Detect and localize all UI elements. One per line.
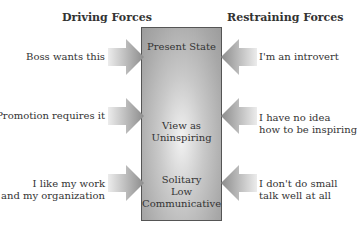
restraining-arrow-icon <box>221 165 257 201</box>
state-label-uninspiring: View as Uninspiring <box>142 120 221 144</box>
restraining-forces-header: Restraining Forces <box>227 11 343 24</box>
restraining-force-text: I have no idea how to be inspiring <box>259 112 357 136</box>
driving-arrow-icon <box>108 39 144 75</box>
driving-force-text: Boss wants this <box>26 51 105 63</box>
restraining-arrow-icon <box>221 98 257 134</box>
restraining-force-text: I don't do small talk well at all <box>259 178 338 202</box>
driving-arrow-icon <box>108 98 144 134</box>
state-label-solitary: Solitary Low Communicative <box>142 174 221 210</box>
driving-arrow-icon <box>108 165 144 201</box>
present-state-box: Present State View as Uninspiring Solita… <box>141 27 222 221</box>
restraining-force-text: I'm an introvert <box>259 51 339 63</box>
driving-force-text: I like my work and my organization <box>1 178 105 202</box>
driving-force-text: Promotion requires it <box>0 110 105 122</box>
restraining-arrow-icon <box>221 39 257 75</box>
state-label-present: Present State <box>142 41 221 53</box>
driving-forces-header: Driving Forces <box>62 11 152 24</box>
